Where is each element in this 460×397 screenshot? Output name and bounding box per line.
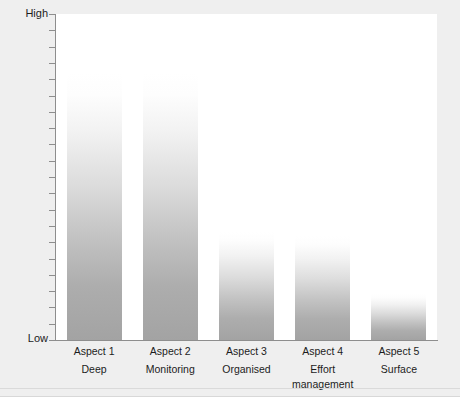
y-axis-high-label: High <box>25 7 48 19</box>
figure-bottom-rule <box>0 388 460 389</box>
y-axis-low-label: Low <box>28 332 48 344</box>
y-axis-tick <box>49 14 55 15</box>
bar-3 <box>219 232 274 340</box>
y-axis-tick <box>49 144 55 145</box>
y-axis-tick <box>49 47 55 48</box>
x-axis-label-sub: Surface <box>361 362 437 377</box>
bar-2 <box>143 73 198 340</box>
y-axis-tick <box>49 324 55 325</box>
x-axis-label-1: Aspect 1Deep <box>56 344 132 377</box>
x-axis-category-labels: Aspect 1DeepAspect 2MonitoringAspect 3Or… <box>56 344 437 394</box>
y-axis-tick <box>49 193 55 194</box>
x-axis-label-name: Aspect 3 <box>208 344 284 359</box>
x-axis-label-sub: Organised <box>208 362 284 377</box>
x-axis-label-name: Aspect 2 <box>132 344 208 359</box>
chart-figure: Percentage score High Low Aspect 1DeepAs… <box>0 0 460 397</box>
y-axis-tick <box>49 307 55 308</box>
bar-5 <box>371 294 426 340</box>
x-axis-label-name: Aspect 4 <box>285 344 361 359</box>
y-axis-tick <box>49 96 55 97</box>
x-axis-label-sub: Monitoring <box>132 362 208 377</box>
plot-area <box>56 14 437 340</box>
x-axis-label-sub: Deep <box>56 362 132 377</box>
y-axis-ticks <box>49 14 55 341</box>
y-axis-tick <box>49 161 55 162</box>
x-axis-line <box>55 340 438 341</box>
y-axis-tick <box>49 291 55 292</box>
x-axis-label-5: Aspect 5Surface <box>361 344 437 377</box>
y-axis-tick <box>49 177 55 178</box>
x-axis-label-name: Aspect 5 <box>361 344 437 359</box>
y-axis-tick <box>49 210 55 211</box>
bars-layer <box>56 14 437 340</box>
x-axis-label-4: Aspect 4Effort management <box>285 344 361 392</box>
y-axis-tick <box>49 128 55 129</box>
y-axis-tick <box>49 259 55 260</box>
x-axis-label-name: Aspect 1 <box>56 344 132 359</box>
y-axis-tick <box>49 112 55 113</box>
x-axis-label-3: Aspect 3Organised <box>208 344 284 377</box>
x-axis-label-2: Aspect 2Monitoring <box>132 344 208 377</box>
y-axis-tick <box>49 63 55 64</box>
y-axis-tick <box>49 275 55 276</box>
y-axis-tick <box>49 226 55 227</box>
y-axis-tick <box>49 79 55 80</box>
bar-1 <box>67 73 122 340</box>
y-axis-tick <box>49 242 55 243</box>
bar-4 <box>295 236 350 340</box>
y-axis-tick <box>49 30 55 31</box>
